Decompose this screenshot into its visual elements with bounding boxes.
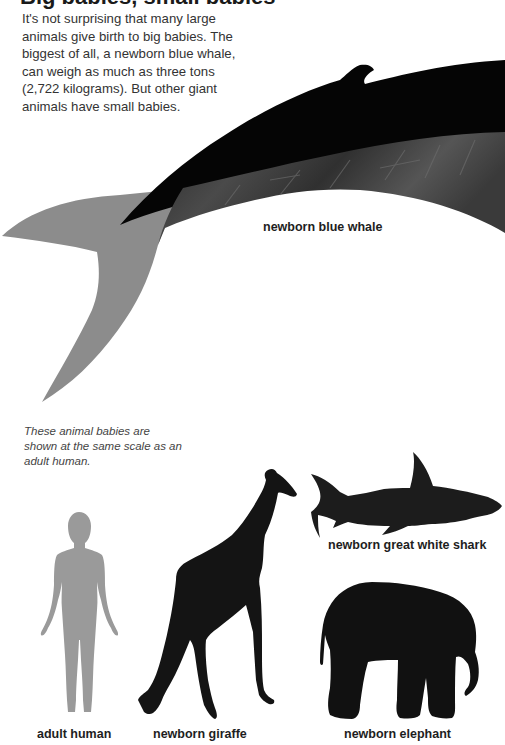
whale-tail-icon bbox=[2, 187, 183, 402]
label-great-white-shark: newborn great white shark bbox=[328, 538, 486, 552]
label-adult-human: adult human bbox=[37, 727, 111, 741]
label-giraffe: newborn giraffe bbox=[153, 727, 247, 741]
human-silhouette bbox=[41, 512, 118, 712]
illustration bbox=[0, 0, 505, 745]
giraffe-silhouette bbox=[138, 469, 297, 719]
scale-caption: These animal babies are shown at the sam… bbox=[24, 424, 184, 469]
shark-silhouette bbox=[311, 452, 502, 538]
label-blue-whale: newborn blue whale bbox=[263, 220, 382, 234]
label-elephant: newborn elephant bbox=[344, 727, 451, 741]
elephant-silhouette bbox=[320, 582, 479, 719]
blue-whale-silhouette bbox=[2, 60, 505, 402]
